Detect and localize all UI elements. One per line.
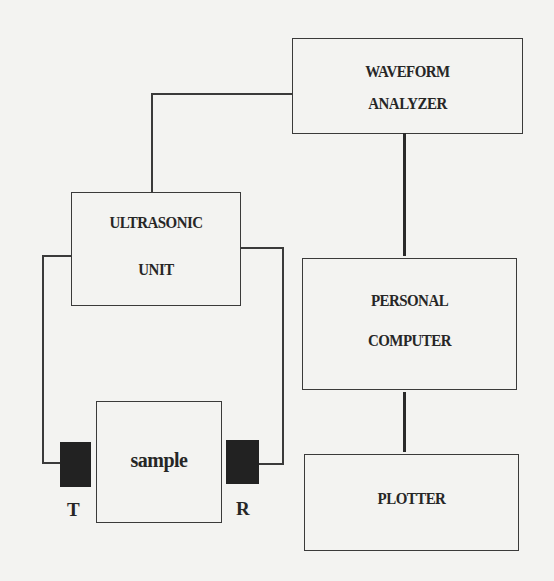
connector-pc-plotter bbox=[403, 392, 406, 452]
wire-to-receiver-v bbox=[282, 247, 284, 464]
wire-to-receiver-top bbox=[240, 247, 284, 249]
transmitter-transducer bbox=[60, 442, 91, 487]
plotter-label: PLOTTER bbox=[318, 489, 505, 509]
waveform-analyzer-label-line2: ANALYZER bbox=[307, 94, 509, 114]
connector-ultrasonic-analyzer-v bbox=[151, 93, 153, 193]
plotter-block: PLOTTER bbox=[304, 454, 519, 551]
transmitter-label: T bbox=[67, 499, 80, 521]
personal-computer-label-line1: PERSONAL bbox=[316, 291, 503, 311]
ultrasonic-unit-block: ULTRASONIC UNIT bbox=[71, 192, 241, 306]
connector-analyzer-pc bbox=[403, 133, 406, 256]
ultrasonic-unit-label-line2: UNIT bbox=[82, 260, 230, 280]
waveform-analyzer-block: WAVEFORM ANALYZER bbox=[292, 38, 523, 134]
receiver-transducer bbox=[226, 440, 259, 484]
wire-to-transmitter-top bbox=[42, 255, 72, 257]
wire-to-transmitter-v bbox=[42, 255, 44, 463]
sample-block: sample bbox=[96, 401, 222, 523]
personal-computer-label-line2: COMPUTER bbox=[316, 331, 503, 351]
wire-to-receiver-bottom bbox=[258, 463, 284, 465]
ultrasonic-unit-label-line1: ULTRASONIC bbox=[82, 213, 230, 233]
connector-ultrasonic-analyzer-h bbox=[152, 93, 293, 95]
personal-computer-block: PERSONAL COMPUTER bbox=[302, 258, 517, 390]
receiver-label: R bbox=[236, 498, 250, 520]
sample-label: sample bbox=[97, 449, 221, 472]
wire-to-transmitter-bottom bbox=[42, 462, 61, 464]
waveform-analyzer-label-line1: WAVEFORM bbox=[307, 62, 509, 82]
